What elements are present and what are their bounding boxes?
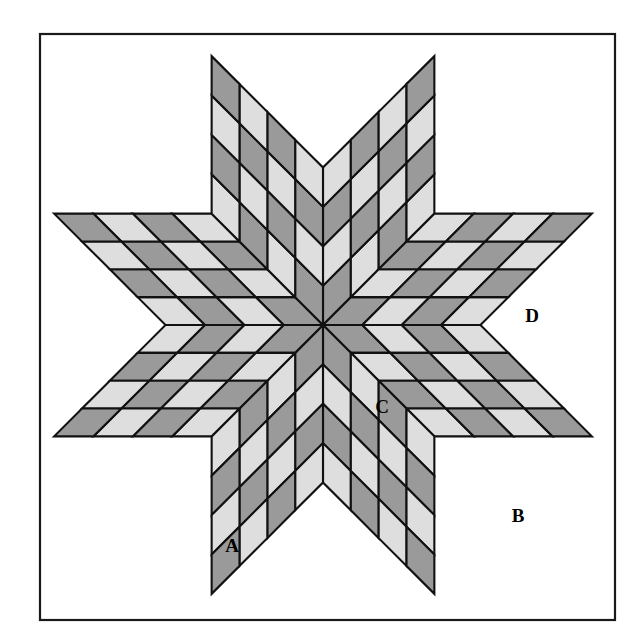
patch-label-b: B (512, 505, 525, 526)
quilt-block-svg: ABCD (0, 0, 635, 643)
quilt-block-figure: ABCD (0, 0, 635, 643)
patch-label-d: D (525, 305, 539, 326)
patch-label-a: A (225, 535, 239, 556)
patch-label-c: C (375, 396, 389, 417)
